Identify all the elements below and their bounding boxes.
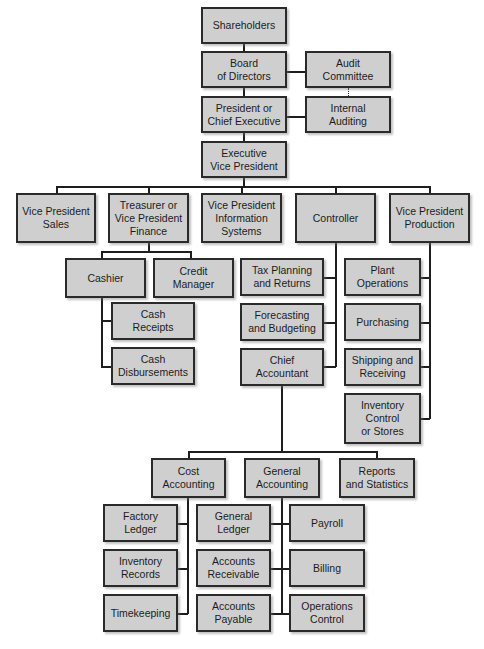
node-vp-sales: Vice President Sales xyxy=(16,193,96,243)
node-audit-committee: Audit Committee xyxy=(305,51,391,88)
node-tax-planning: Tax Planning and Returns xyxy=(240,258,324,296)
node-board-of-directors: Board of Directors xyxy=(201,51,287,88)
connector xyxy=(101,366,111,368)
connector xyxy=(101,251,191,253)
connector xyxy=(376,451,378,458)
node-inventory-control: Inventory Control or Stores xyxy=(344,393,421,444)
connector xyxy=(323,277,336,279)
connector xyxy=(148,243,150,251)
node-chief-accountant: Chief Accountant xyxy=(240,348,324,386)
node-factory-ledger: Factory Ledger xyxy=(103,504,178,542)
node-credit-manager: Credit Manager xyxy=(153,258,234,298)
connector xyxy=(56,186,430,188)
connector xyxy=(101,251,103,258)
connector xyxy=(281,386,283,451)
node-cashier: Cashier xyxy=(65,258,146,298)
connector xyxy=(101,298,103,366)
node-controller: Controller xyxy=(295,193,376,243)
connector xyxy=(243,133,245,141)
connector xyxy=(241,186,243,193)
node-payroll: Payroll xyxy=(289,504,365,542)
connector xyxy=(270,568,289,570)
node-vp-information-systems: Vice President Information Systems xyxy=(201,193,282,243)
node-executive-vp: Executive Vice President xyxy=(201,141,287,178)
node-cash-disbursements: Cash Disbursements xyxy=(111,347,195,385)
node-internal-auditing: Internal Auditing xyxy=(305,96,391,133)
node-general-accounting: General Accounting xyxy=(244,458,320,498)
node-timekeeping: Timekeeping xyxy=(103,594,178,632)
connector xyxy=(270,523,289,525)
connector xyxy=(420,418,430,420)
connector xyxy=(281,498,283,614)
connector xyxy=(188,451,190,458)
node-plant-operations: Plant Operations xyxy=(344,258,421,296)
connector xyxy=(270,613,289,615)
connector xyxy=(335,243,337,367)
connector xyxy=(323,366,336,368)
node-vp-production: Vice President Production xyxy=(389,193,470,243)
node-shipping-receiving: Shipping and Receiving xyxy=(344,348,421,386)
connector xyxy=(177,613,188,615)
connector xyxy=(420,277,430,279)
connector xyxy=(177,523,188,525)
org-chart: Shareholders Board of Directors Audit Co… xyxy=(0,0,484,649)
node-cash-receipts: Cash Receipts xyxy=(111,302,195,340)
connector xyxy=(56,186,58,193)
connector xyxy=(287,116,305,118)
connector xyxy=(187,498,189,614)
connector xyxy=(243,43,245,51)
node-accounts-payable: Accounts Payable xyxy=(196,594,271,632)
connector xyxy=(420,322,430,324)
dotted-connector xyxy=(348,88,349,96)
node-shareholders: Shareholders xyxy=(201,7,287,44)
connector xyxy=(243,178,245,186)
node-president: President or Chief Executive xyxy=(201,96,287,133)
connector xyxy=(429,186,431,193)
connector xyxy=(287,71,305,73)
connector xyxy=(243,87,245,96)
connector xyxy=(190,251,192,258)
node-reports-statistics: Reports and Statistics xyxy=(339,458,415,498)
node-billing: Billing xyxy=(289,549,365,587)
node-forecasting: Forecasting and Budgeting xyxy=(240,303,324,341)
connector xyxy=(148,186,150,193)
node-operations-control: Operations Control xyxy=(289,594,365,632)
connector xyxy=(420,366,430,368)
node-purchasing: Purchasing xyxy=(344,303,421,341)
connector xyxy=(101,320,111,322)
connector xyxy=(323,322,336,324)
connector xyxy=(177,568,188,570)
node-general-ledger: General Ledger xyxy=(196,504,271,542)
node-inventory-records: Inventory Records xyxy=(103,549,178,587)
node-cost-accounting: Cost Accounting xyxy=(151,458,226,498)
connector xyxy=(188,451,377,453)
node-accounts-receivable: Accounts Receivable xyxy=(196,549,271,587)
connector xyxy=(429,243,431,419)
node-treasurer: Treasurer or Vice President Finance xyxy=(108,193,189,243)
connector xyxy=(335,186,337,193)
